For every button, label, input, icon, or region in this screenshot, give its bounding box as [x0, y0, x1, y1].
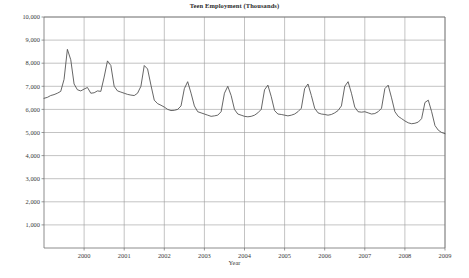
line-chart-plot: 10,0009,0008,0007,0006,0005,0004,0003,00…	[0, 0, 469, 278]
y-tick-label: 9,000	[26, 36, 40, 43]
x-tick-label: 2007	[358, 252, 372, 259]
y-tick-label: 10,000	[22, 13, 40, 20]
x-axis-label: Year	[0, 259, 469, 266]
y-tick-label: 8,000	[26, 59, 40, 66]
y-tick-label: 4,000	[26, 152, 40, 159]
y-tick-label: 3,000	[26, 175, 40, 182]
x-tick-label: 2005	[278, 252, 291, 259]
x-tick-label: 2000	[78, 252, 91, 259]
x-tick-label: 2001	[118, 252, 131, 259]
x-tick-label: 2002	[158, 252, 171, 259]
y-tick-label: 2,000	[26, 198, 40, 205]
x-tick-label: 2004	[238, 252, 252, 259]
x-tick-label: 2008	[399, 252, 412, 259]
x-tick-label: 2006	[318, 252, 331, 259]
chart-container: Teen Employment (Thousands) 10,0009,0008…	[0, 0, 469, 278]
y-tick-label: 6,000	[26, 106, 40, 113]
y-tick-label: 5,000	[26, 129, 40, 136]
y-tick-label: 1,000	[26, 221, 40, 228]
y-tick-label: 7,000	[26, 83, 40, 90]
x-tick-label: 2009	[439, 252, 452, 259]
x-tick-label: 2003	[198, 252, 211, 259]
